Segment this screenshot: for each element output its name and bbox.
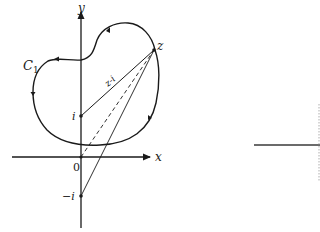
segment-minus-i-to-z (81, 50, 154, 196)
segment-origin-to-z (81, 50, 154, 157)
point-i-label: i (72, 110, 76, 123)
point-minus-i (79, 194, 83, 198)
curve-c1 (33, 23, 159, 145)
x-axis-label: x (155, 150, 162, 164)
y-axis-label: y (77, 1, 85, 15)
point-origin (79, 155, 82, 158)
segment-i-to-z (81, 50, 154, 116)
curve-arrow-icon (31, 92, 36, 96)
point-z (152, 48, 156, 52)
point-minus-i-label: −i (62, 190, 75, 203)
segment-z-minus-i-label: z-i (102, 74, 117, 89)
point-z-label: z (156, 39, 164, 53)
curve-c1-label: C1 (23, 58, 39, 75)
curve-arrow-icon (54, 57, 59, 62)
contour-diagram: y x 0 i −i z C1 z-i (0, 0, 320, 232)
origin-label: 0 (73, 161, 80, 174)
diagram-svg: y x 0 i −i z C1 z-i (0, 0, 320, 232)
point-i (79, 114, 83, 118)
